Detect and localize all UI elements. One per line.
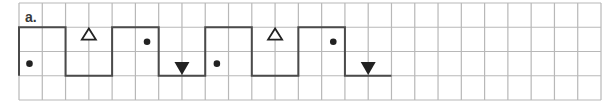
hollow-up-triangle-marker [268,29,282,40]
filled-down-triangle-marker [174,62,189,75]
grid-lines [19,3,601,100]
dot-marker [214,60,221,67]
pattern-grid-diagram: a. [0,0,610,108]
dot-marker [330,39,337,46]
dot-marker [26,60,33,67]
dot-marker [144,39,151,46]
exercise-label: a. [25,9,37,25]
hollow-up-triangle-marker [82,29,96,40]
filled-down-triangle-marker [361,62,376,75]
